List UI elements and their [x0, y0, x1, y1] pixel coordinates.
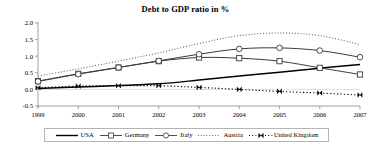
dash-dot-bowtie-swatch — [248, 131, 272, 140]
data-point-marker — [277, 59, 282, 64]
data-point-marker — [236, 46, 242, 52]
svg-text:2004: 2004 — [233, 111, 247, 118]
svg-text:0.5: 0.5 — [25, 69, 34, 76]
data-point-marker — [196, 51, 202, 57]
data-point-marker — [317, 48, 323, 54]
series-layer — [35, 33, 363, 98]
data-point-marker — [277, 45, 283, 51]
data-point-marker — [317, 90, 322, 96]
svg-text:2006: 2006 — [313, 111, 327, 118]
legend-label-united-kingdom: United Kingdom — [274, 132, 319, 139]
data-point-marker — [156, 58, 162, 64]
chart-legend: USA Germany Italy Aus — [44, 128, 329, 142]
legend-item-usa: USA — [55, 131, 94, 140]
svg-text:1.0: 1.0 — [25, 53, 34, 60]
chart-container: Debt to GDP ratio in % 2.01.51.00.50.0-0… — [0, 0, 371, 148]
legend-item-united-kingdom: United Kingdom — [248, 131, 319, 140]
legend-item-italy: Italy — [154, 131, 192, 140]
svg-text:0.0: 0.0 — [25, 86, 34, 93]
legend-label-austria: Austria — [223, 132, 242, 139]
data-point-marker — [358, 92, 363, 98]
legend-label-germany: Germany — [125, 132, 150, 139]
data-point-marker — [75, 71, 81, 77]
legend-label-italy: Italy — [180, 132, 192, 139]
legend-item-germany: Germany — [99, 131, 150, 140]
plot-area: 2.01.51.00.50.0-0.5 19992000200120022003… — [0, 0, 371, 148]
data-point-marker — [357, 72, 362, 77]
svg-text:1.5: 1.5 — [25, 36, 34, 43]
data-point-marker — [357, 54, 363, 60]
svg-text:2007: 2007 — [353, 111, 367, 118]
svg-text:1999: 1999 — [31, 111, 45, 118]
svg-text:2001: 2001 — [112, 111, 125, 118]
data-point-marker — [116, 65, 122, 71]
series-line-usa — [38, 65, 360, 89]
svg-text:2000: 2000 — [72, 111, 86, 118]
square-marker-line-swatch — [99, 131, 123, 140]
x-axis: 199920002001200220032004200520062007 — [31, 89, 367, 118]
data-point-marker — [237, 56, 242, 61]
svg-text:2005: 2005 — [273, 111, 287, 118]
circle-marker-line-swatch — [154, 131, 178, 140]
solid-line-swatch — [55, 131, 79, 140]
y-axis: 2.01.51.00.50.0-0.5 — [23, 19, 38, 109]
data-point-marker — [35, 79, 41, 85]
svg-text:2002: 2002 — [152, 111, 165, 118]
legend-label-usa: USA — [81, 132, 94, 139]
svg-text:2003: 2003 — [192, 111, 206, 118]
dotted-line-swatch — [197, 131, 221, 140]
data-point-marker — [317, 65, 322, 70]
data-point-marker — [76, 83, 81, 89]
svg-text:-0.5: -0.5 — [23, 102, 34, 109]
legend-item-austria: Austria — [197, 131, 242, 140]
svg-text:2.0: 2.0 — [25, 19, 34, 26]
